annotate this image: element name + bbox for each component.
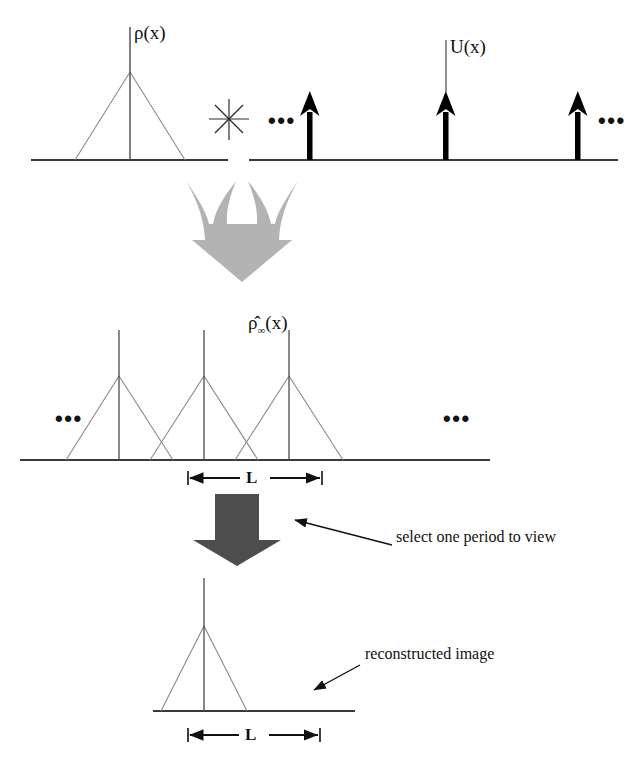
panel-reconstructed xyxy=(153,578,355,711)
panel-object-density xyxy=(31,27,228,160)
periodic-ellipsis-left: ••• xyxy=(55,408,83,430)
figure-canvas: ρ(x) U(x) ••• ••• ρ̂∞(x) ••• ••• L selec… xyxy=(0,0,642,766)
label-rho-of-x: ρ(x) xyxy=(134,22,166,44)
label-rho-hat-tail: (x) xyxy=(265,312,287,333)
panel-sampling-comb xyxy=(249,40,618,160)
annotation-reconstructed-image: reconstructed image xyxy=(365,645,494,663)
dark-block-down-arrow-icon xyxy=(193,494,281,566)
label-rho-hat-infinity: ρ̂∞(x) xyxy=(248,312,287,336)
annotation-leader-select-period xyxy=(295,520,392,545)
gray-fancy-down-arrow-icon xyxy=(186,181,298,282)
annotation-leader-reconstructed xyxy=(314,665,360,690)
convolution-star-icon xyxy=(209,99,249,140)
comb-impulse xyxy=(436,91,456,160)
diagram-graphics xyxy=(0,0,642,766)
label-U-of-x: U(x) xyxy=(450,36,486,58)
comb-impulse xyxy=(568,91,588,160)
annotation-select-period: select one period to view xyxy=(396,528,556,546)
comb-impulse xyxy=(300,91,320,160)
panel-periodic-density xyxy=(20,330,490,460)
periodic-ellipsis-right: ••• xyxy=(443,408,471,430)
period-label-bottom: L xyxy=(245,725,256,745)
comb-ellipsis-right: ••• xyxy=(598,110,626,132)
period-label-top: L xyxy=(246,468,257,488)
comb-ellipsis-left: ••• xyxy=(268,110,296,132)
